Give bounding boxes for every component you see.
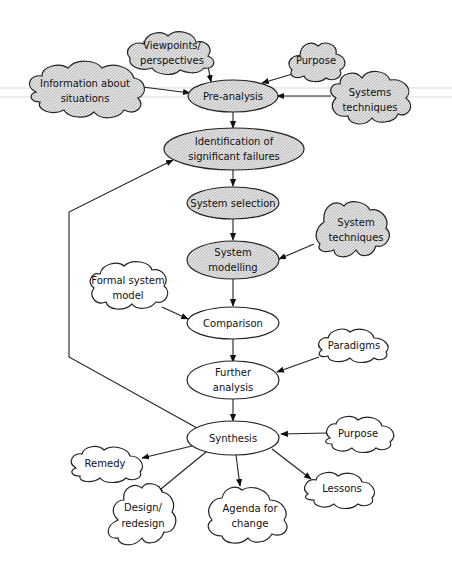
node-formal-system-model-cloud: Formal system model — [90, 262, 167, 309]
node-label: Design/ — [124, 502, 163, 513]
node-viewpoints-cloud: Viewpoints/ perspectives — [127, 32, 213, 75]
node-label: perspectives — [140, 55, 204, 66]
node-system-modelling: System modelling — [187, 241, 279, 279]
node-label: Identification of — [195, 136, 274, 147]
node-design-cloud: Design/ redesign — [108, 484, 175, 545]
node-information-cloud: Information about situations — [29, 61, 144, 118]
node-label: significant failures — [188, 151, 280, 162]
node-further-analysis: Further analysis — [187, 361, 279, 399]
node-label: Remedy — [85, 458, 126, 469]
systems-failures-method-diagram: Viewpoints/ perspectives Information abo… — [0, 0, 452, 575]
node-label: modelling — [208, 262, 257, 273]
node-label: redesign — [121, 518, 164, 529]
node-identification: Identification of significant failures — [164, 128, 304, 170]
node-label: Synthesis — [209, 433, 257, 444]
node-label: Paradigms — [328, 340, 380, 351]
node-label: Further — [215, 367, 252, 378]
node-system-techniques-cloud: System techniques — [316, 202, 389, 257]
node-label: Viewpoints/ — [143, 40, 201, 51]
node-system-selection: System selection — [187, 187, 279, 219]
node-pre-analysis: Pre-analysis — [188, 80, 278, 112]
edge-formalmodel-comparison — [162, 307, 188, 319]
node-purpose-top-cloud: Purpose — [289, 43, 345, 81]
node-label: Information about — [40, 78, 130, 89]
node-paradigms-cloud: Paradigms — [319, 329, 388, 362]
node-label: Lessons — [322, 483, 362, 494]
node-synthesis: Synthesis — [187, 421, 279, 455]
node-label: Formal system — [91, 275, 164, 286]
node-agenda-cloud: Agenda for change — [208, 487, 287, 543]
node-lessons-cloud: Lessons — [305, 473, 375, 509]
node-label: techniques — [342, 102, 397, 113]
node-label: Purpose — [296, 55, 336, 66]
edge-purpose-synthesis — [281, 433, 327, 434]
node-systems-techniques-top-cloud: Systems techniques — [331, 71, 411, 124]
node-label: model — [112, 290, 143, 301]
node-label: System selection — [190, 198, 275, 209]
node-label: Comparison — [203, 318, 263, 329]
node-comparison: Comparison — [187, 307, 279, 339]
node-label: Pre-analysis — [203, 91, 263, 102]
edge-synthesis-design — [156, 452, 206, 493]
node-label: System — [214, 247, 251, 258]
edge-paradigms-further — [277, 357, 319, 372]
edge-systemtechniques-modelling — [279, 244, 314, 259]
node-label: Systems — [349, 87, 392, 98]
node-label: techniques — [328, 232, 383, 243]
node-purpose-bottom-cloud: Purpose — [326, 417, 394, 453]
node-label: change — [232, 518, 269, 529]
edge-synthesis-remedy — [142, 446, 192, 458]
node-label: Purpose — [338, 428, 378, 439]
edge-synthesis-lessons — [272, 449, 311, 479]
node-label: System — [337, 217, 374, 228]
node-label: situations — [61, 93, 110, 104]
edge-synthesis-agenda — [236, 455, 240, 486]
node-label: Agenda for — [222, 503, 278, 514]
node-remedy-cloud: Remedy — [71, 447, 142, 483]
node-label: analysis — [213, 382, 254, 393]
